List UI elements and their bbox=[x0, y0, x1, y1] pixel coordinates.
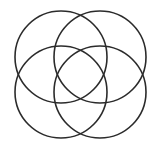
venn-diagram bbox=[0, 0, 158, 148]
circle-top-left bbox=[15, 11, 107, 103]
circle-bottom-right bbox=[54, 46, 146, 138]
circle-top-right bbox=[54, 11, 146, 103]
circle-bottom-left bbox=[15, 46, 107, 138]
